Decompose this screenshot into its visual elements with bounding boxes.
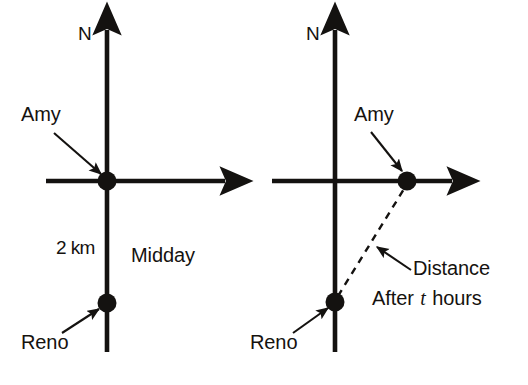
time-variable-t: t xyxy=(419,287,426,309)
right-reno-leader-line xyxy=(293,308,328,333)
left-panel-group xyxy=(46,30,225,352)
left-amy-leader-line xyxy=(54,133,101,174)
left-reno-label: Reno xyxy=(21,332,68,352)
right-reno-label: Reno xyxy=(250,332,297,352)
left-reno-point xyxy=(98,294,117,313)
after-t-hours-label: After t hours xyxy=(372,288,482,308)
right-north-label: N xyxy=(306,24,320,43)
distance-dashed-line xyxy=(338,189,404,296)
left-amy-label: Amy xyxy=(21,104,61,124)
right-amy-point xyxy=(398,172,417,191)
left-reno-leader-line xyxy=(62,309,99,333)
distance-leader-line xyxy=(377,247,411,270)
diagram-canvas xyxy=(0,0,528,385)
right-amy-leader-line xyxy=(371,132,402,171)
right-amy-label: Amy xyxy=(354,104,394,124)
after-t-hours-suffix: hours xyxy=(427,287,482,309)
after-t-hours-prefix: After xyxy=(372,287,419,309)
distance-label: Distance xyxy=(413,258,490,278)
left-north-label: N xyxy=(78,24,92,43)
midday-time-label: Midday xyxy=(131,245,195,265)
figure-container: N Amy 2 km Midday Reno N Amy Distance Af… xyxy=(0,0,528,385)
separation-distance-label: 2 km xyxy=(56,238,95,257)
